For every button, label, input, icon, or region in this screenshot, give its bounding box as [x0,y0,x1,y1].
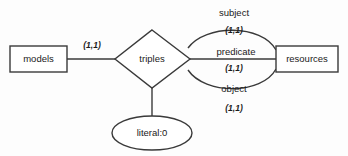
er-diagram-canvas: models triples resources literal:0 (1,1)… [0,0,348,156]
edge-subject-label: subject [219,7,249,18]
edge-models-triples-cardinality: (1,1) [83,40,101,50]
edge-subject-cardinality: (1,1) [225,25,243,35]
entity-models-label: models [23,53,54,64]
edge-predicate-cardinality: (1,1) [225,63,243,73]
relationship-triples-label: triples [139,53,165,64]
attribute-literal-label: literal:0 [137,127,168,138]
edge-object-label: object [221,83,247,94]
er-diagram-svg: models triples resources literal:0 (1,1)… [0,0,348,156]
entity-resources-label: resources [286,53,328,64]
edge-object-cardinality: (1,1) [225,103,243,113]
edge-predicate-label: predicate [216,46,255,57]
